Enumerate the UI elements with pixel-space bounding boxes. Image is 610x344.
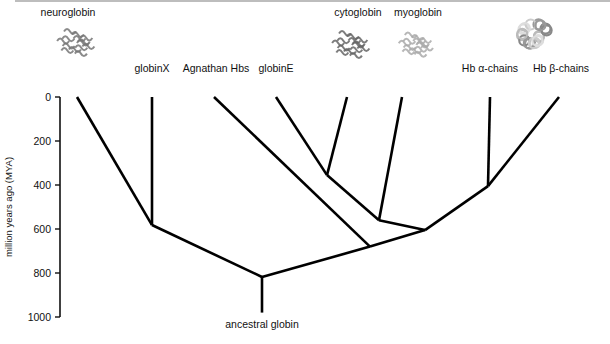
branch-neuro-globinX-stem bbox=[152, 225, 262, 277]
axis-tick-label: 0 bbox=[45, 91, 51, 103]
leaf-label-cytoglobin: cytoglobin bbox=[334, 6, 381, 18]
axis-tick-label: 1000 bbox=[28, 311, 52, 323]
branch-cyto-myo-stem bbox=[379, 220, 425, 230]
branch-myoglobin bbox=[379, 97, 402, 220]
phylogenetic-tree: 02004006008001000 neuroglobinglobinXAgna… bbox=[0, 0, 610, 344]
axis-tick-label: 200 bbox=[33, 135, 51, 147]
leaf-label-neuroglobin: neuroglobin bbox=[41, 6, 96, 18]
structure-myoglobin-icon bbox=[399, 32, 433, 56]
branch-hb-beta bbox=[488, 97, 559, 186]
root-label: ancestral globin bbox=[225, 318, 299, 330]
leaf-label-agnathan: Agnathan Hbs bbox=[183, 62, 250, 74]
axis-tick-label: 400 bbox=[33, 179, 51, 191]
leaf-label-globinE: globinE bbox=[258, 62, 293, 74]
branch-hb-alpha bbox=[488, 97, 490, 186]
branch-cytoglobin bbox=[327, 97, 347, 175]
leaf-labels: neuroglobinglobinXAgnathan HbsglobinEcyt… bbox=[41, 6, 590, 74]
axis-tick-label: 600 bbox=[33, 223, 51, 235]
leaf-label-globinX: globinX bbox=[134, 62, 169, 74]
axis-title: million years ago (MYA) bbox=[3, 157, 14, 257]
structure-cytoglobin-icon bbox=[332, 31, 369, 58]
branch-root-agnathan-node bbox=[262, 247, 370, 277]
branch-hb-stem bbox=[425, 186, 488, 230]
branches bbox=[77, 97, 559, 313]
axis-tick-label: 800 bbox=[33, 267, 51, 279]
structure-neuroglobin-icon bbox=[57, 29, 94, 56]
leaf-label-hbb: Hb β-chains bbox=[533, 62, 589, 74]
leaf-label-myoglobin: myoglobin bbox=[394, 6, 442, 18]
leaf-label-hba: Hb α-chains bbox=[462, 62, 518, 74]
protein-structures bbox=[57, 19, 552, 58]
branch-neuroglobin bbox=[77, 97, 152, 225]
branch-agnathan-core bbox=[370, 230, 425, 247]
time-axis: 02004006008001000 bbox=[28, 91, 60, 323]
structure-hemoglobin-icon bbox=[517, 19, 552, 48]
